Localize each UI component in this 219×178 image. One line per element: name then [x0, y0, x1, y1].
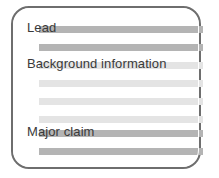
text-line-6 [39, 116, 203, 123]
text-line-2 [39, 44, 203, 51]
text-line-4 [39, 80, 203, 87]
text-line-5 [39, 98, 203, 105]
text-line-8 [39, 148, 203, 155]
label-lead: Lead [27, 21, 56, 34]
label-background-information: Background information [27, 57, 167, 70]
text-line-1 [39, 26, 203, 33]
article-structure-diagram: Lead Background information Major claim [0, 0, 219, 178]
label-major-claim: Major claim [27, 125, 95, 138]
